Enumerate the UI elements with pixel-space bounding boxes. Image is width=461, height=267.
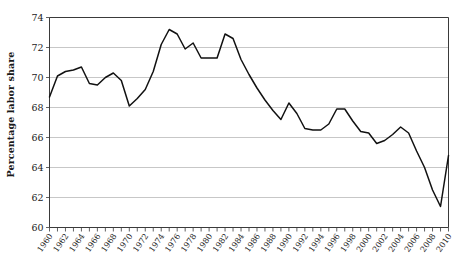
x-tick-label: 1990 xyxy=(275,232,294,254)
x-tick-label: 2008 xyxy=(419,232,438,254)
x-tick-label: 1960 xyxy=(36,232,55,254)
y-tick-label: 72 xyxy=(31,42,43,53)
x-tick-marks xyxy=(50,228,449,232)
x-tick-label: 2006 xyxy=(403,232,422,254)
y-tick-label: 60 xyxy=(31,222,43,233)
y-tick-labels: 6062646668707274 xyxy=(31,12,43,233)
x-tick-labels: 1960196219641966196819701972197419761978… xyxy=(36,232,454,254)
x-tick-label: 1966 xyxy=(83,232,102,254)
x-tick-label: 1968 xyxy=(99,232,118,254)
x-tick-label: 1982 xyxy=(211,232,230,254)
x-tick-label: 2004 xyxy=(387,232,406,254)
series-line xyxy=(50,30,449,207)
y-tick-marks xyxy=(46,18,50,228)
x-tick-label: 1974 xyxy=(147,232,166,254)
x-tick-label: 2002 xyxy=(371,232,390,254)
x-tick-label: 1976 xyxy=(163,232,182,254)
x-tick-label: 2010 xyxy=(435,232,454,254)
x-tick-label: 1970 xyxy=(115,232,134,254)
y-tick-label: 74 xyxy=(31,12,43,23)
x-tick-label: 1996 xyxy=(323,232,342,254)
x-tick-label: 2000 xyxy=(355,232,374,254)
x-tick-label: 1978 xyxy=(179,232,198,254)
x-tick-label: 1984 xyxy=(227,232,246,254)
y-tick-label: 62 xyxy=(31,192,43,203)
labor-share-line-chart: Percentage labor share 6062646668707274 … xyxy=(0,0,461,267)
x-tick-label: 1980 xyxy=(195,232,214,254)
x-tick-label: 1994 xyxy=(307,232,326,254)
x-tick-label: 1972 xyxy=(131,232,150,254)
x-tick-label: 1988 xyxy=(259,232,278,254)
gridlines xyxy=(50,18,449,198)
x-tick-label: 1962 xyxy=(52,232,71,254)
x-tick-label: 1986 xyxy=(243,232,262,254)
y-tick-label: 64 xyxy=(31,162,43,173)
y-tick-label: 68 xyxy=(31,102,43,113)
chart-canvas: 6062646668707274 19601962196419661968197… xyxy=(0,0,461,267)
data-series-group xyxy=(50,30,449,207)
axis-lines xyxy=(50,18,449,228)
y-tick-label: 66 xyxy=(31,132,43,143)
x-tick-label: 1964 xyxy=(68,232,87,254)
x-tick-label: 1998 xyxy=(339,232,358,254)
x-tick-label: 1992 xyxy=(291,232,310,254)
y-tick-label: 70 xyxy=(31,72,43,83)
